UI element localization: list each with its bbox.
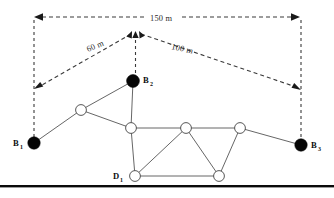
ground-baseline-rule bbox=[0, 185, 334, 187]
triangulation-network-diagram: 150 m 60 m 100 m B 1 B 2 bbox=[0, 0, 334, 198]
node-label-b1: B bbox=[13, 138, 19, 148]
node-label-b3: B bbox=[311, 140, 317, 150]
node-center[interactable] bbox=[126, 123, 137, 134]
canvas-background bbox=[0, 0, 334, 198]
node-bottom-right[interactable] bbox=[214, 171, 225, 182]
node-label-b2: B bbox=[143, 75, 149, 85]
node-label-b2-subscript: 2 bbox=[150, 81, 153, 87]
node-upper-left[interactable] bbox=[76, 105, 87, 116]
node-mid-right[interactable] bbox=[181, 123, 192, 134]
dimension-label-total-span: 150 m bbox=[150, 14, 172, 23]
node-label-d1: D bbox=[113, 171, 119, 181]
node-b1[interactable] bbox=[28, 137, 40, 149]
node-d1[interactable] bbox=[130, 171, 141, 182]
node-right[interactable] bbox=[235, 123, 246, 134]
node-b3[interactable] bbox=[295, 139, 307, 151]
node-b2[interactable] bbox=[127, 75, 140, 88]
node-label-d1-subscript: 1 bbox=[120, 177, 123, 183]
node-label-b1-subscript: 1 bbox=[20, 144, 23, 150]
diagram-canvas: 150 m 60 m 100 m B 1 B 2 bbox=[0, 0, 334, 198]
node-label-b3-subscript: 3 bbox=[318, 146, 321, 152]
